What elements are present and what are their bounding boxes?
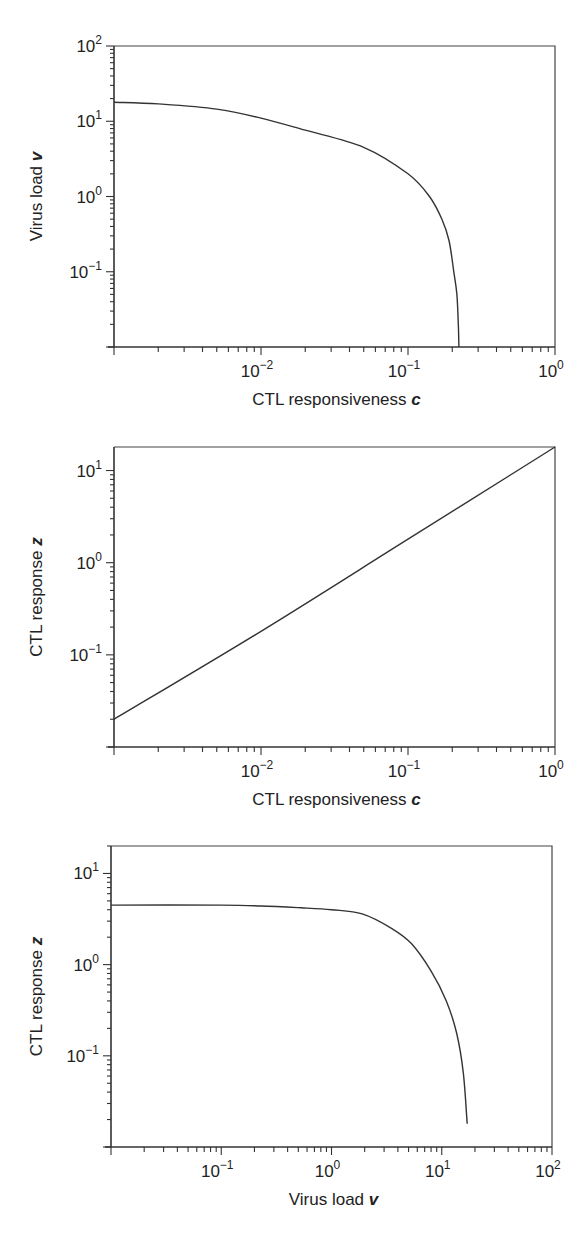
x-tick-label: 102: [535, 1158, 561, 1181]
x-tick-label: 100: [538, 758, 564, 781]
x-tick-label: 10−2: [241, 758, 274, 781]
plot-frame: [114, 46, 555, 347]
data-curve: [114, 447, 555, 719]
y-tick-label: 100: [76, 184, 102, 207]
y-tick-label: 10−1: [69, 642, 102, 665]
y-tick-label: 101: [73, 860, 99, 883]
plot-frame: [111, 846, 552, 1147]
y-tick-label: 100: [76, 550, 102, 573]
y-axis-title: Virus load v: [27, 150, 46, 241]
data-curve: [114, 102, 459, 347]
y-tick-label: 101: [76, 458, 102, 481]
x-axis-title: CTL responsiveness c: [252, 790, 421, 809]
chart-ctl-response-vs-virus-load: 10−110010110210110010−1Virus load vCTL r…: [27, 846, 561, 1209]
plot-frame: [114, 447, 555, 747]
chart-ctl-response-vs-responsiveness: 10−210−110010110010−1CTL responsiveness …: [27, 447, 564, 809]
figure: 10−210−110010210110010−1CTL responsivene…: [0, 0, 588, 1234]
data-curve: [111, 905, 467, 1124]
y-axis-title: CTL response z: [27, 537, 46, 657]
x-tick-label: 101: [425, 1158, 451, 1181]
x-tick-label: 10−1: [388, 358, 421, 381]
y-tick-label: 100: [73, 952, 99, 975]
x-tick-label: 100: [538, 358, 564, 381]
chart-virus-load-vs-responsiveness: 10−210−110010210110010−1CTL responsivene…: [27, 33, 564, 409]
x-axis-title: Virus load v: [289, 1190, 380, 1209]
x-tick-label: 100: [315, 1158, 341, 1181]
x-tick-label: 10−2: [241, 358, 274, 381]
x-tick-label: 10−1: [388, 758, 421, 781]
y-tick-label: 102: [76, 33, 102, 56]
x-axis-title: CTL responsiveness c: [252, 390, 421, 409]
y-tick-label: 10−1: [66, 1043, 99, 1066]
x-tick-label: 10−1: [201, 1158, 234, 1181]
y-axis-title: CTL response z: [27, 936, 46, 1056]
y-tick-label: 101: [76, 108, 102, 131]
y-tick-label: 10−1: [69, 259, 102, 282]
